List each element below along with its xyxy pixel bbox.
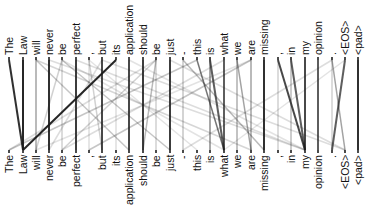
bottom-token-label: we	[232, 155, 243, 168]
bottom-token-label: be	[151, 155, 162, 167]
bottom-token-label: ,	[273, 155, 284, 158]
bottom-token-label: what	[219, 155, 230, 177]
bottom-token-label: its	[111, 156, 122, 167]
bottom-token-label: but	[97, 155, 108, 170]
top-token-label: in	[286, 47, 297, 55]
top-token-label: what	[219, 33, 230, 55]
bottom-token-label: just	[165, 155, 176, 171]
top-token-label: perfect	[71, 23, 82, 55]
bottom-token-label: is	[205, 155, 216, 163]
bottom-token-label: -	[178, 156, 189, 160]
bottom-token-label: will	[31, 155, 42, 170]
top-token-label: but	[97, 40, 108, 55]
bottom-token-label: should	[138, 155, 149, 186]
top-token-label: opinion	[313, 21, 324, 55]
top-token-label: will	[31, 40, 42, 55]
bottom-token-label: <EOS>	[340, 155, 351, 189]
top-token-label: Law	[18, 36, 29, 55]
attention-link	[76, 60, 305, 150]
bottom-token-label: never	[44, 155, 55, 181]
top-token-label: this	[192, 39, 203, 55]
top-token-label: we	[232, 42, 243, 55]
top-token-label: <pad>	[353, 25, 364, 55]
attention-link	[237, 60, 251, 150]
attention-link	[224, 60, 345, 150]
top-token-label: be	[57, 43, 68, 55]
top-token-label: just	[165, 39, 176, 55]
top-token-label: should	[138, 24, 149, 55]
bottom-token-label: ,	[84, 155, 95, 158]
bottom-token-label: application	[124, 155, 135, 205]
attention-link	[9, 60, 23, 150]
top-token-label: The	[4, 37, 15, 55]
top-token-label: missing	[259, 19, 270, 55]
bottom-token-label: in	[286, 155, 297, 163]
top-token-label: be	[151, 43, 162, 55]
attention-link	[89, 60, 102, 150]
top-token-label: -	[178, 52, 189, 56]
top-token-label: ,	[84, 52, 95, 55]
bottom-token-label: The	[4, 155, 15, 173]
top-token-label: <EOS>	[340, 21, 351, 55]
top-token-label: application	[124, 5, 135, 55]
top-token-label: its	[111, 45, 122, 56]
bottom-token-label: missing	[259, 155, 270, 191]
top-token-label: never	[44, 29, 55, 55]
bottom-token-label: my	[300, 155, 311, 169]
attention-link	[291, 60, 305, 150]
top-token-label: is	[205, 47, 216, 55]
bottom-token-label: .	[327, 155, 338, 158]
top-token-label: my	[300, 41, 311, 55]
top-token-label: are	[246, 40, 257, 55]
bottom-token-label: Law	[18, 155, 29, 174]
bottom-token-label: opinion	[313, 155, 324, 189]
top-token-label: .	[327, 52, 338, 55]
bottom-token-label: perfect	[71, 155, 82, 187]
bottom-token-label: this	[192, 155, 203, 171]
top-token-label: ,	[273, 52, 284, 55]
bottom-token-label: be	[57, 155, 68, 167]
bottom-token-label: are	[246, 155, 257, 170]
bottom-token-label: <pad>	[353, 155, 364, 185]
